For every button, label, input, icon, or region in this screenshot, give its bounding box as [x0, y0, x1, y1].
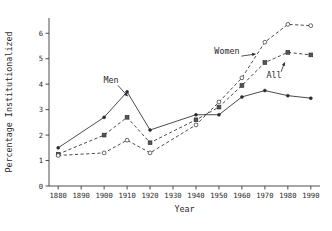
- annotation-label-women: Women: [214, 46, 239, 56]
- x-tick-label: 1890: [72, 191, 89, 200]
- data-point-women: [309, 24, 313, 28]
- x-tick-label: 1980: [279, 191, 296, 200]
- chart-container: 1880189019001910192019301940195019601970…: [0, 0, 332, 231]
- y-tick-label: 1: [39, 156, 43, 165]
- data-point-men: [126, 90, 129, 93]
- data-point-women: [56, 154, 60, 158]
- x-tick-label: 1970: [256, 191, 273, 200]
- data-point-women: [286, 22, 290, 26]
- x-tick-label: 1990: [302, 191, 319, 200]
- x-axis-ticks: 1880189019001910192019301940195019601970…: [50, 186, 320, 200]
- chart-axes: [49, 18, 320, 186]
- data-point-all: [148, 141, 152, 145]
- data-point-men: [309, 97, 312, 100]
- y-tick-label: 0: [39, 182, 43, 191]
- data-point-women: [102, 151, 106, 155]
- data-point-all: [102, 133, 106, 137]
- data-point-women: [125, 138, 129, 142]
- data-point-all: [263, 61, 267, 65]
- series-line-men: [58, 91, 311, 148]
- annotation-label-men: Men: [103, 75, 118, 85]
- data-point-all: [217, 105, 221, 109]
- y-tick-label: 6: [39, 29, 43, 38]
- data-point-men: [263, 89, 266, 92]
- data-point-all: [309, 53, 313, 57]
- x-tick-label: 1920: [141, 191, 158, 200]
- data-point-women: [263, 40, 267, 44]
- data-point-women: [217, 100, 221, 104]
- data-point-men: [217, 113, 220, 116]
- x-tick-label: 1900: [95, 191, 112, 200]
- x-tick-label: 1940: [187, 191, 204, 200]
- data-point-men: [103, 116, 106, 119]
- data-point-women: [148, 151, 152, 155]
- data-point-men: [149, 129, 152, 132]
- x-tick-label: 1880: [50, 191, 67, 200]
- data-series-group: [56, 22, 312, 157]
- annotation-arrowhead-women: [252, 53, 256, 56]
- data-point-men: [57, 146, 60, 149]
- line-chart: 1880189019001910192019301940195019601970…: [0, 0, 332, 231]
- data-point-women: [194, 123, 198, 127]
- x-axis-label: Year: [174, 204, 194, 214]
- x-tick-label: 1950: [210, 191, 227, 200]
- x-tick-label: 1930: [164, 191, 181, 200]
- series-line-women: [58, 24, 311, 155]
- annotation-label-all: All: [266, 70, 281, 80]
- y-tick-label: 3: [39, 105, 43, 114]
- x-tick-label: 1910: [118, 191, 135, 200]
- y-axis-label: Percentage Institutionalized: [4, 31, 14, 172]
- data-point-men: [240, 95, 243, 98]
- data-point-men: [194, 113, 197, 116]
- data-point-men: [286, 94, 289, 97]
- y-tick-label: 5: [39, 54, 43, 63]
- data-point-all: [125, 115, 129, 119]
- data-point-all: [194, 118, 198, 122]
- series-line-all: [58, 52, 311, 154]
- y-tick-label: 2: [39, 131, 43, 140]
- y-axis-ticks: 0123456: [39, 29, 49, 191]
- data-point-women: [240, 76, 244, 80]
- data-point-all: [286, 50, 290, 54]
- y-tick-label: 4: [39, 80, 43, 89]
- x-tick-label: 1960: [233, 191, 250, 200]
- data-point-all: [240, 84, 244, 88]
